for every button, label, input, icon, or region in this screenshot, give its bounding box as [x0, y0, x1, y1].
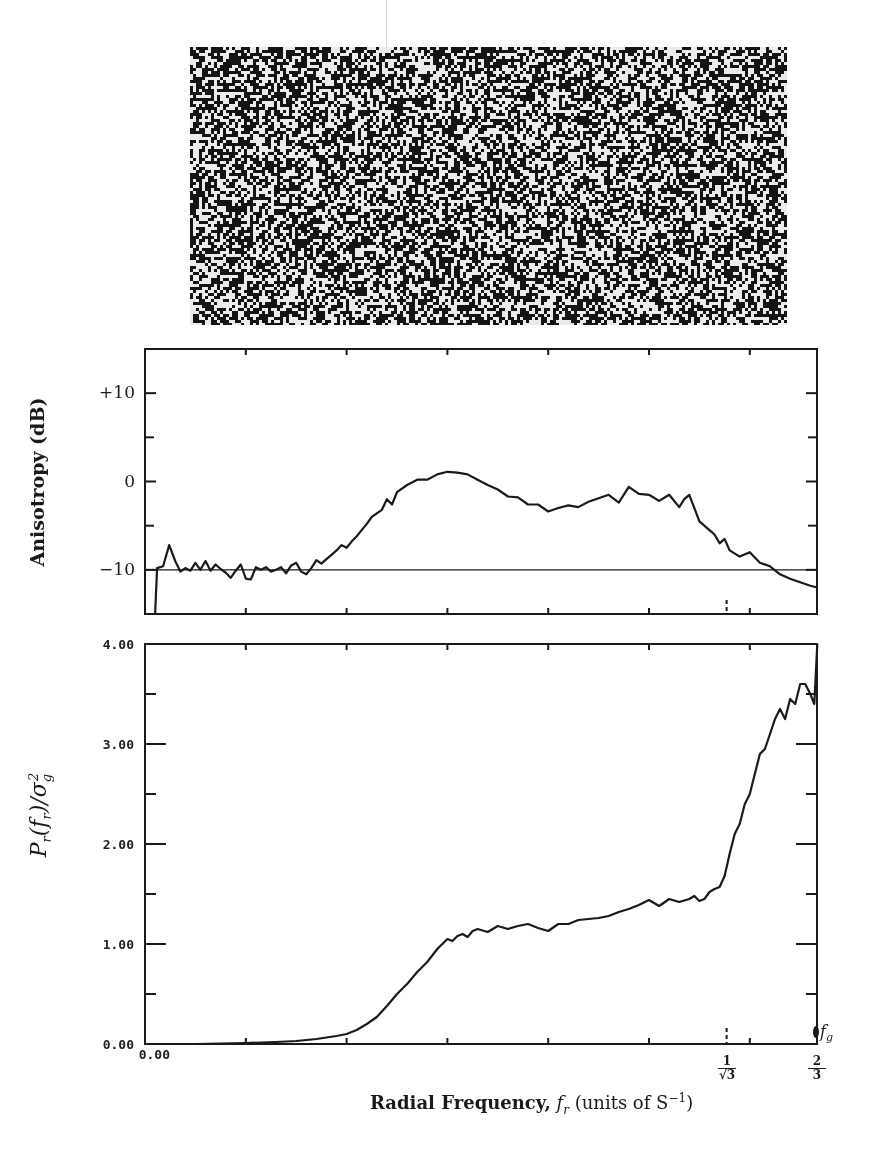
fg-annotation: fg [820, 1022, 833, 1044]
anisotropy-curve [155, 472, 817, 614]
anisotropy-plot [145, 349, 817, 614]
ytick-4: 4.00 [86, 637, 134, 652]
ytick-2: 2.00 [86, 837, 134, 852]
ytick-minus10: −10 [75, 559, 135, 579]
ytick-plus10: +10 [75, 382, 135, 402]
ytick-0: 0 [75, 471, 135, 491]
ytick-3: 3.00 [86, 737, 134, 752]
ytick-1: 1.00 [86, 937, 134, 952]
xtick-0: 0.00 [122, 1047, 170, 1062]
fg-marker [813, 1026, 819, 1038]
x-axis-label: Radial Frequency, fr (units of S−1) [370, 1091, 693, 1117]
anisotropy-y-axis-label: Anisotropy (dB) [26, 398, 48, 567]
power-spectrum-curve [145, 644, 817, 1044]
xtick-two-thirds: 2 3 [802, 1055, 832, 1082]
power-spectrum-y-axis-label: Pr(fr)/σg2 [26, 773, 55, 858]
power-spectrum-plot [145, 644, 819, 1044]
power-spectrum-plot-frame [145, 644, 817, 1044]
xtick-one-over-root3: 1 √3 [712, 1055, 742, 1082]
